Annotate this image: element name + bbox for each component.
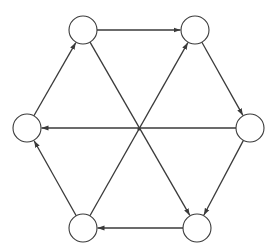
directed-graph-diagram (0, 0, 277, 250)
node-top-right (181, 16, 209, 44)
node-left (13, 114, 41, 142)
edge-right-to-bottom-right (204, 140, 244, 215)
edge-left-to-top-left (34, 43, 76, 116)
center-intersection-dot (137, 127, 140, 130)
node-right (236, 114, 264, 142)
node-bottom-left (69, 214, 97, 242)
node-top-left (69, 16, 97, 44)
edge-bottom-left-to-left (34, 141, 76, 216)
edge-top-right-to-right (202, 42, 243, 115)
node-bottom-right (183, 214, 211, 242)
